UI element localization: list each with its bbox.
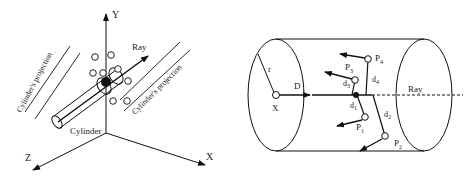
point-p1 — [362, 114, 369, 121]
y-axis-label: Y — [112, 9, 119, 20]
intersection-cluster — [101, 77, 111, 87]
axes — [33, 14, 205, 170]
cylinder-label: Cylinder — [70, 126, 102, 136]
point-p3 — [352, 77, 359, 84]
ray-label: Ray — [408, 84, 423, 94]
x-axis-label: X — [206, 151, 214, 162]
origin-point — [273, 92, 280, 99]
right-projection-label: Cylinder's projection — [130, 63, 184, 117]
d2-label: d2 — [384, 110, 391, 120]
radius-label: r — [268, 64, 271, 74]
x-axis — [106, 133, 205, 165]
projection-cluster — [353, 92, 359, 98]
radius-line — [258, 54, 275, 95]
p2-label: P2 — [394, 138, 402, 150]
right-figure: r X D Ray P1 — [248, 39, 463, 151]
p3-label: P3 — [345, 62, 353, 74]
d3-label: d3 — [343, 79, 350, 89]
p4-label: P4 — [375, 53, 383, 65]
d4-label: d4 — [372, 75, 379, 85]
z-axis — [33, 133, 106, 170]
ray-label: Ray — [132, 42, 147, 52]
diagram-canvas: Y X Z Cylinder's projection Cylinder's p… — [0, 0, 476, 179]
origin-label: X — [272, 103, 279, 113]
left-figure: Y X Z Cylinder's projection Cylinder's p… — [15, 9, 214, 170]
z-axis-label: Z — [25, 152, 31, 163]
d1-label: d1 — [350, 101, 357, 111]
left-projection-label: Cylinder's projection — [15, 51, 54, 114]
point-p4 — [365, 56, 372, 63]
p1-label: P1 — [356, 122, 364, 134]
point-p2 — [382, 133, 389, 140]
direction-label: D — [294, 81, 301, 91]
